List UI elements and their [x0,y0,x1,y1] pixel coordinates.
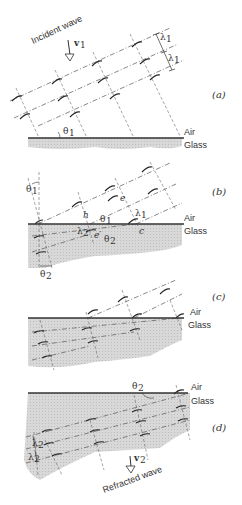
point-h-label: h [83,210,89,220]
point-e-prime-label: e′ [94,230,101,240]
svg-text:2: 2 [38,440,44,450]
wavefront-line [88,280,176,318]
point-e-label: e [120,193,125,203]
panel-a: Incident wave v 1 λ 1 λ 1 ( [10,13,226,150]
svg-text:2: 2 [46,271,52,281]
v1-sub: 1 [80,40,86,50]
theta1-label: θ [26,184,31,194]
svg-text:1: 1 [69,128,75,138]
air-label: Air [184,213,195,223]
air-label: Air [191,382,202,392]
svg-text:2: 2 [83,228,89,238]
wavefront-line [14,44,178,118]
air-label: Air [184,127,195,137]
glass-region [28,138,182,149]
panel-d: θ 2 λ 2 λ 2 v 2 Refracted wave (d) Air G… [24,381,226,495]
panel-label-c: (c) [212,291,226,302]
svg-text:1: 1 [174,55,180,65]
ray-line [130,34,182,140]
theta2-label: θ [40,269,45,279]
svg-text:1: 1 [141,210,147,220]
svg-text:1: 1 [166,34,172,44]
wavefront-line [38,60,184,126]
panel-label-b: (b) [212,186,226,197]
glass-label: Glass [184,226,208,236]
v1-label: v [73,38,80,48]
theta2-label: θ [132,381,137,391]
svg-text:2: 2 [34,454,40,464]
svg-text:2: 2 [140,455,146,465]
svg-text:2: 2 [138,383,144,393]
wave-crests [12,42,160,119]
v2-label: v [133,453,140,463]
velocity-arrow-v1 [65,40,74,61]
glass-label: Glass [184,140,208,150]
point-c-label: c [139,226,144,236]
glass-region [24,393,190,480]
theta1-label: θ [63,126,68,136]
theta2-angle-label: θ [104,234,109,244]
theta1-angle-label: θ [100,214,105,224]
glass-label: Glass [188,320,212,330]
panel-label-d: (d) [212,422,226,433]
refraction-diagram: Incident wave v 1 λ 1 λ 1 ( [0,0,242,505]
svg-text:1: 1 [32,186,38,196]
panel-label-a: (a) [212,89,226,100]
air-label: Air [190,307,201,317]
panel-b: θ 1 h e c e′ θ 1 λ 1 λ 2 θ 2 θ 2 (b) Air… [26,162,226,281]
svg-text:2: 2 [110,236,116,246]
glass-label: Glass [191,396,215,406]
panel-c: (c) Air Glass [28,280,226,370]
